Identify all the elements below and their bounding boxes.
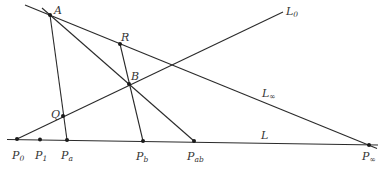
point-Pab [192, 139, 196, 143]
label-Linf: L∞ [261, 87, 276, 101]
label-L: L [260, 129, 268, 142]
line-R-Pb [120, 44, 143, 141]
label-R: R [120, 31, 129, 44]
label-P0: P0 [11, 149, 24, 163]
point-Pb [141, 139, 145, 143]
point-A [48, 13, 52, 17]
label-Pa: Pa [60, 149, 73, 163]
label-A: A [53, 4, 62, 17]
point-P1 [38, 138, 42, 142]
label-Q: Q [51, 108, 60, 121]
label-B: B [130, 70, 139, 83]
point-Q [61, 114, 65, 118]
diagram-canvas: A R B Q P0 P1 Pa Pb Pab P∞ L0 L∞ L [0, 0, 379, 177]
point-P0 [15, 137, 19, 141]
label-L0: L0 [285, 5, 298, 19]
label-Pb: Pb [135, 150, 148, 164]
point-Pa [65, 138, 69, 142]
line-A-Pa [50, 15, 67, 140]
line-L-infinity [25, 5, 377, 149]
label-Pinf: P∞ [361, 150, 376, 164]
label-P1: P1 [34, 149, 47, 163]
point-Pinf [367, 143, 371, 147]
label-Pab: Pab [186, 150, 204, 164]
